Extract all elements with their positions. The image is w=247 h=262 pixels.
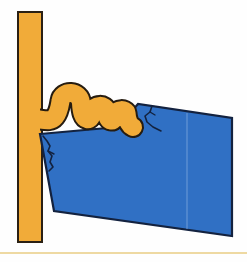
folding-diagram xyxy=(0,0,247,262)
bar-ribbon-junction-patch xyxy=(20,106,40,132)
page-divider-line xyxy=(0,252,247,254)
figure-canvas xyxy=(0,0,247,262)
